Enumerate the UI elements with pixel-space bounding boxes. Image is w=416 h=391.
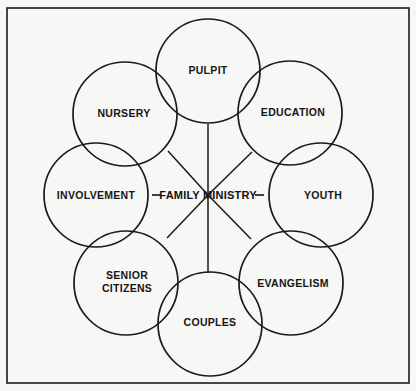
- spoke-evangelism: [208, 195, 251, 239]
- circle-nursery[interactable]: [73, 62, 177, 166]
- circle-pulpit[interactable]: [156, 19, 260, 123]
- circle-couples[interactable]: [158, 272, 262, 376]
- circle-education[interactable]: [238, 61, 342, 165]
- spoke-education: [208, 152, 252, 195]
- family-ministry-diagram: [0, 0, 416, 391]
- circle-involvement[interactable]: [44, 143, 148, 247]
- spoke-nursery: [168, 151, 208, 195]
- spokes-group: [167, 124, 252, 273]
- circle-evangelism[interactable]: [239, 231, 343, 335]
- diagram-canvas: FAMILY MINISTRY PULPITEDUCATIONYOUTHEVAN…: [0, 0, 416, 391]
- spoke-senior-citizens: [167, 195, 208, 238]
